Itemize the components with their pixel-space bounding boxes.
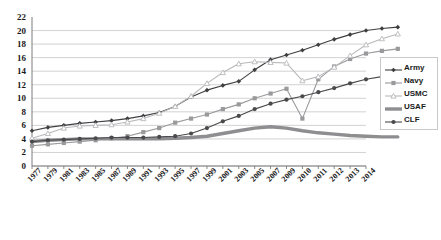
data-point (78, 137, 82, 141)
data-series (29, 25, 400, 148)
legend-point (391, 80, 395, 84)
x-tick-label: 1981 (57, 166, 75, 184)
data-point (348, 81, 352, 85)
data-point (46, 125, 51, 130)
series-line-usaf (32, 127, 398, 142)
gridlines (32, 31, 366, 166)
data-point (109, 135, 113, 139)
legend-item-usmc[interactable]: USMC (384, 87, 435, 100)
legend-marker-usmc-icon (384, 88, 403, 100)
data-point (237, 114, 241, 118)
data-point (364, 28, 369, 33)
data-point (46, 138, 50, 142)
data-point (46, 142, 50, 146)
legend-item-clf[interactable]: CLF (384, 113, 435, 126)
data-point (316, 90, 320, 94)
data-point (396, 47, 400, 51)
data-point (30, 144, 34, 148)
data-point (316, 74, 321, 79)
series-line-army (32, 27, 398, 131)
data-point (205, 126, 209, 130)
data-point (284, 87, 288, 91)
x-tick-label: 1997 (185, 166, 203, 184)
x-tick-label: 1995 (169, 166, 187, 184)
data-point (205, 88, 210, 93)
data-point (300, 94, 304, 98)
data-point (332, 37, 337, 42)
legend-label: USMC (403, 88, 428, 100)
x-tick-label: 1999 (201, 166, 219, 184)
legend-label: Army (403, 62, 424, 74)
data-point (125, 135, 129, 139)
legend-item-usaf[interactable]: USAF (384, 100, 435, 113)
data-point (205, 112, 209, 116)
data-point (380, 26, 385, 31)
legend-label: CLF (403, 114, 420, 126)
data-point (332, 86, 336, 90)
legend-marker-usaf-icon (384, 101, 403, 113)
data-point (62, 137, 66, 141)
x-tick-label: 2003 (232, 166, 250, 184)
data-point (316, 42, 321, 47)
data-point (396, 25, 401, 30)
data-point (157, 126, 161, 130)
data-point (395, 31, 400, 36)
legend-point (391, 119, 395, 123)
data-point (253, 107, 257, 111)
series-line-clf (32, 74, 398, 142)
data-point (173, 121, 177, 125)
data-point (284, 98, 288, 102)
legend-marker-clf-icon (384, 114, 403, 126)
x-tick-label: 2005 (248, 166, 266, 184)
legend-item-navy[interactable]: Navy (384, 74, 435, 87)
data-point (173, 134, 177, 138)
data-point (141, 130, 145, 134)
x-tick-label: 1983 (73, 166, 91, 184)
legend-label: USAF (403, 101, 426, 113)
x-tick-label: 2012 (328, 166, 346, 184)
x-tick-label: 2010 (296, 166, 314, 184)
data-point (364, 51, 368, 55)
series-clf (30, 72, 400, 144)
series-navy (30, 47, 400, 148)
series-line-navy (32, 49, 398, 146)
x-tick-label: 1979 (42, 166, 60, 184)
x-tick-label: 2014 (360, 166, 378, 184)
data-point (157, 135, 161, 139)
data-point (189, 116, 193, 120)
data-point (94, 136, 98, 140)
x-tick-label: 2007 (264, 166, 282, 184)
legend-item-army[interactable]: Army (384, 61, 435, 74)
data-point (300, 116, 304, 120)
data-point (284, 53, 289, 58)
data-point (221, 119, 225, 123)
x-tick-label: 1991 (137, 166, 155, 184)
legend-marker-army-icon (384, 62, 403, 74)
data-point (189, 131, 193, 135)
data-point (221, 83, 226, 88)
data-point (220, 70, 225, 75)
x-axis-labels: 1977197919811983198519871989199119931995… (0, 168, 441, 200)
x-tick-label: 2001 (216, 166, 234, 184)
x-tick-label: 2013 (344, 166, 362, 184)
x-tick-label: 1987 (105, 166, 123, 184)
data-point (364, 77, 368, 81)
series-army (30, 25, 400, 133)
x-tick-label: 2011 (312, 166, 329, 183)
x-tick-label: 2009 (280, 166, 298, 184)
x-tick-label: 1977 (26, 166, 44, 184)
series-usaf (32, 127, 398, 142)
data-point (237, 102, 241, 106)
legend-label: Navy (403, 75, 423, 87)
x-tick-label: 1993 (153, 166, 171, 184)
data-point (348, 32, 353, 37)
legend-point (391, 67, 396, 72)
data-point (268, 102, 272, 106)
data-point (253, 96, 257, 100)
chart-legend: ArmyNavyUSMCUSAFCLF (380, 57, 438, 130)
x-tick-label: 1985 (89, 166, 107, 184)
data-point (141, 135, 145, 139)
series-usmc (29, 31, 400, 140)
x-tick-label: 1989 (121, 166, 139, 184)
legend-marker-navy-icon (384, 75, 403, 87)
